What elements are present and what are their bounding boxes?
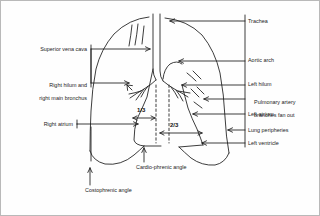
leader-pulmonary-artery-branches: [204, 97, 245, 101]
label-right-hilum-and-right-main-bronchus: Right hilum and right main bronchus: [1, 76, 87, 107]
label-pulmonary-artery-branches-fan-out: Pulmonary artery branches fan out: [248, 93, 320, 124]
leader-right-atrium: [77, 122, 138, 126]
bronchi-shape: [129, 80, 190, 101]
label-lung-peripheries: Lung peripheries: [248, 127, 320, 133]
label-line-1: Pulmonary artery: [254, 99, 295, 105]
leader-cardio-phrenic-angle: [142, 148, 146, 162]
aortic-arch-shape: [163, 62, 182, 79]
leader-costophrenic-angle: [88, 168, 92, 185]
leader-left-hilum: [182, 83, 245, 87]
measurement-one-third: 1/3: [137, 107, 145, 113]
leader-trachea: [170, 19, 245, 23]
label-right-atrium: Right atrium: [1, 121, 73, 127]
label-cardio-phrenic-angle: Cardio-phrenic angle: [136, 164, 226, 170]
label-costophrenic-angle: Costophrenic angle: [85, 187, 175, 193]
figure-container: Superior vena cava Right hilum and right…: [0, 0, 320, 216]
label-aortic-arch: Aortic arch: [248, 57, 320, 63]
label-superior-vena-cava: Superior vena cava: [1, 46, 87, 52]
leader-superior-vena-cava: [91, 47, 150, 51]
label-left-ventricle: Left ventricle: [248, 140, 320, 146]
two-thirds-measure: [160, 131, 202, 135]
right-lung-outline: [90, 17, 149, 164]
leader-aortic-arch: [179, 59, 245, 63]
label-left-atrium: Left atrium: [248, 111, 320, 117]
one-third-measure: [133, 116, 155, 120]
label-left-hilum: Left hilum: [248, 81, 320, 87]
label-line-1: Right hilum and: [49, 82, 87, 88]
label-line-2: right main bronchus: [39, 95, 87, 101]
pulmonary-artery-branches: [187, 71, 204, 108]
measurement-two-thirds: 2/3: [170, 122, 178, 128]
leader-left-atrium: [193, 112, 245, 116]
label-trachea: Trachea: [248, 18, 320, 24]
leader-lung-peripheries: [228, 128, 245, 132]
leader-left-ventricle: [202, 141, 245, 145]
trachea-shape: [153, 14, 163, 81]
leader-right-hilum: [91, 81, 132, 91]
